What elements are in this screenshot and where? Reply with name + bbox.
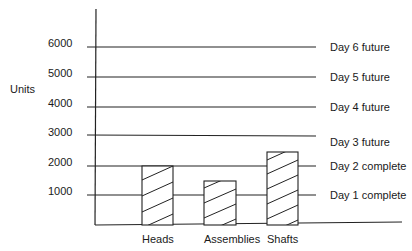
- bar-assemblies: [204, 174, 236, 233]
- category-heads: Heads: [142, 233, 174, 245]
- label-day-6: Day 6 future: [330, 41, 390, 53]
- label-day-1: Day 1 complete: [330, 189, 406, 201]
- day-3-line: [87, 135, 316, 136]
- bar-heads: [142, 150, 173, 228]
- label-day-5: Day 5 future: [330, 71, 390, 83]
- category-shafts: Shafts: [267, 233, 298, 245]
- label-day-2: Day 2 complete: [330, 160, 406, 172]
- y-axis-label: Units: [10, 83, 35, 95]
- y-axis: [95, 9, 96, 225]
- category-assemblies: Assemblies: [204, 233, 260, 245]
- y-tick-4000: 4000: [48, 97, 82, 109]
- y-tick-2000: 2000: [48, 156, 82, 168]
- y-tick-3000: 3000: [48, 126, 82, 138]
- y-tick-6000: 6000: [48, 37, 82, 49]
- x-axis: [95, 222, 402, 225]
- y-tick-1000: 1000: [48, 185, 82, 197]
- bar-shafts: [267, 146, 298, 234]
- y-tick-5000: 5000: [48, 67, 82, 79]
- label-day-3: Day 3 future: [330, 136, 390, 148]
- label-day-4: Day 4 future: [330, 101, 390, 113]
